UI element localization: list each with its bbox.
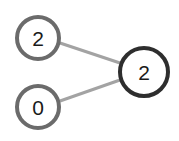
node-label: 2 bbox=[32, 27, 44, 50]
node-label: 0 bbox=[32, 96, 44, 119]
node-right: 2 bbox=[120, 48, 168, 96]
node-top-left: 2 bbox=[17, 17, 59, 59]
graph-diagram: 2 0 2 bbox=[0, 0, 179, 141]
node-bottom-left: 0 bbox=[17, 86, 59, 128]
edge-n2-n3 bbox=[60, 80, 120, 101]
node-label: 2 bbox=[138, 61, 150, 84]
edge-n1-n3 bbox=[60, 43, 120, 63]
